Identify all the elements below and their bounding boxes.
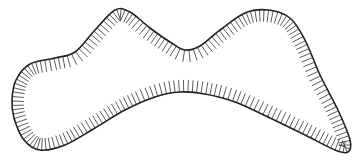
hatch-mark [193,49,197,60]
hatch-mark [104,109,110,119]
hatch-mark [93,115,99,125]
hatch-mark [96,113,102,123]
hatch-mark [319,94,330,100]
hatch-mark [208,40,216,49]
hatch-mark [303,62,314,66]
hatch-mark [139,26,147,35]
hatch-mark [154,36,161,46]
hatch-mark [329,115,340,120]
hatch-mark [335,139,339,150]
hatch-mark [40,61,42,73]
hatch-mark [210,83,212,95]
hatch-mark [234,19,241,29]
hatch-mark [140,90,145,101]
hatch-mark [183,50,185,62]
hatch-mark [179,80,180,92]
hatch-mark [143,28,150,38]
hatch-mark [197,81,198,93]
hatch-mark [77,125,83,135]
hachured-contour-diagram [0,0,363,163]
hatch-mark [16,119,27,123]
hatch-mark [321,98,332,104]
hatch-mark [315,129,321,140]
hatch-mark [278,13,283,24]
hatch-mark [100,111,106,121]
hatch-mark [151,34,158,44]
hatch-mark [74,127,80,137]
hatch-mark [233,90,237,101]
hatch-mark [312,80,323,85]
hatch-mark [131,94,136,105]
hatch-mark [70,129,76,139]
hatch-mark [307,125,312,136]
hatch-mark [302,58,313,62]
hatch-mark [82,45,91,53]
hatch-mark [12,101,24,102]
hatch-mark [56,136,60,147]
hatch-mark [230,22,237,32]
hatch-mark [290,117,295,128]
hatch-mark [113,11,120,21]
hatch-mark [17,123,28,127]
hatch-mark [145,88,149,99]
hatch-mark [36,62,39,74]
hatch-mark [314,85,325,91]
hatch-mark [331,137,336,148]
hatch-mark [272,108,277,119]
hatch-mark [228,88,232,99]
hatch-mark [245,95,250,106]
hatch-mark [12,97,24,98]
hatch-mark [164,82,167,94]
hatch-mark [42,138,43,150]
hatch-mark [123,97,128,108]
hatch-mark [338,141,350,144]
hatch-mark [162,41,168,51]
hatch-mark [100,24,109,32]
hatch-mark [24,68,32,77]
hatch-mark [327,111,338,116]
hatch-mark [79,49,87,57]
hatch-mark [212,37,220,46]
hatch-mark [281,112,286,123]
hatch-mark [30,136,37,145]
hatch-mark [174,81,175,93]
hatch-mark [16,79,27,85]
hatch-mark [19,126,30,131]
hatch-mark [298,121,303,132]
hatch-mark [175,49,180,60]
hatch-mark [14,115,25,118]
hatch-mark [255,10,257,22]
hatch-mark [250,11,253,23]
hatch-mark [263,10,264,22]
hatch-mark [85,42,94,50]
hatch-mark [107,106,113,116]
hatch-mark [63,56,65,68]
hatch-mark [63,133,68,144]
hatch-mark [189,50,190,62]
hatch-mark [298,49,309,54]
hatch-mark [159,83,162,95]
hatch-mark [59,134,63,145]
hatch-mark [326,107,337,112]
hatch-mark [166,44,173,54]
hatch-mark [219,85,222,97]
hatch-mark [319,132,325,143]
hatch-mark [206,82,208,94]
hatch-mark [223,87,226,99]
hatch-mark [15,83,26,87]
hatch-mark [45,138,46,150]
hatch-mark [285,114,290,125]
hatch-mark [76,52,83,62]
hatch-mark [246,13,250,24]
hatch-mark [48,138,50,150]
hatch-mark [216,33,224,42]
hatch-mark [334,127,345,132]
hatch-mark [276,110,281,121]
hatch-mark [237,91,241,102]
hatch-mark [294,119,299,130]
hatch-mark [169,81,171,93]
hatch-mark [227,25,234,35]
hatch-mark [127,95,132,106]
hatch-mark [331,119,342,124]
hatch-mark [205,42,213,51]
